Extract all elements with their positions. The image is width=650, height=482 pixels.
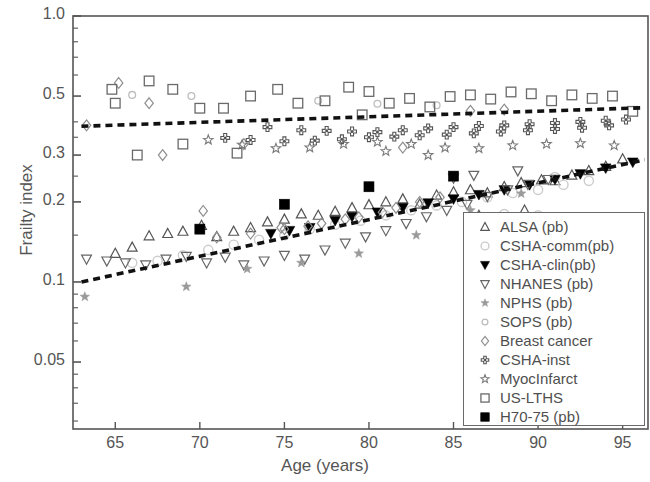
y-tick-label: 0.05 bbox=[17, 351, 65, 369]
frailty-index-scatter-figure: Frailty index Age (years) 1.00.50.30.20.… bbox=[0, 0, 650, 482]
legend-item-sops-pb[interactable]: SOPS (pb) bbox=[464, 312, 644, 331]
y-tick-label: 0.5 bbox=[17, 85, 65, 103]
legend-item-label: CSHA-clin(pb) bbox=[500, 256, 596, 274]
legend-item-breast-cancer[interactable]: Breast cancer bbox=[464, 331, 644, 350]
x-tick-label: 90 bbox=[515, 434, 561, 452]
x-tick-label: 85 bbox=[431, 434, 477, 452]
x-tick-label: 70 bbox=[177, 434, 223, 452]
legend-item-label: NHANES (pb) bbox=[500, 275, 593, 293]
legend-item-myocinfarct[interactable]: MyocInfarct bbox=[464, 369, 644, 388]
series-breast-cancer bbox=[82, 78, 508, 243]
y-tick-label: 1.0 bbox=[17, 5, 65, 23]
legend-item-label: MyocInfarct bbox=[500, 370, 578, 388]
legend-item-csha-clin-pb[interactable]: CSHA-clin(pb) bbox=[464, 255, 644, 274]
legend-item-csha-inst[interactable]: CSHA-inst bbox=[464, 350, 644, 369]
x-tick-label: 75 bbox=[261, 434, 307, 452]
x-tick-label: 95 bbox=[600, 434, 646, 452]
legend-box: ALSA (pb)CSHA-comm(pb)CSHA-clin(pb)NHANE… bbox=[463, 212, 645, 426]
diamond-open-icon bbox=[470, 332, 500, 350]
series-h70-75-pb bbox=[195, 171, 459, 234]
y-tick-label: 0.2 bbox=[17, 191, 65, 209]
square-filled-icon bbox=[470, 408, 500, 426]
x-axis-title: Age (years) bbox=[200, 456, 450, 476]
star-gray-icon bbox=[470, 294, 500, 312]
legend-item-label: ALSA (pb) bbox=[500, 218, 568, 236]
triangle-down-filled-icon bbox=[470, 256, 500, 274]
x-tick-label: 65 bbox=[92, 434, 138, 452]
legend-item-us-lths[interactable]: US-LTHS bbox=[464, 388, 644, 407]
legend-item-nhanes-pb[interactable]: NHANES (pb) bbox=[464, 274, 644, 293]
legend-item-label: CSHA-comm(pb) bbox=[500, 237, 614, 255]
circle-open-icon bbox=[470, 237, 500, 255]
legend-item-nphs-pb[interactable]: NPHS (pb) bbox=[464, 293, 644, 312]
series-csha-inst bbox=[221, 115, 631, 146]
legend-item-label: CSHA-inst bbox=[500, 351, 570, 369]
triangle-up-open-icon bbox=[470, 218, 500, 236]
y-tick-label: 0.1 bbox=[17, 271, 65, 289]
cross-dot-icon bbox=[470, 351, 500, 369]
legend-item-label: NPHS (pb) bbox=[500, 294, 573, 312]
x-tick-label: 80 bbox=[346, 434, 392, 452]
legend-item-label: Breast cancer bbox=[500, 332, 593, 350]
circle-small-open-icon bbox=[470, 313, 500, 331]
star-open-icon bbox=[470, 370, 500, 388]
legend-item-label: SOPS (pb) bbox=[500, 313, 573, 331]
legend-item-label: H70-75 (pb) bbox=[500, 408, 580, 426]
legend-item-h70-75-pb[interactable]: H70-75 (pb) bbox=[464, 407, 644, 426]
square-open-icon bbox=[470, 389, 500, 407]
legend-item-label: US-LTHS bbox=[500, 389, 563, 407]
legend-item-csha-comm-pb[interactable]: CSHA-comm(pb) bbox=[464, 236, 644, 255]
series-myocinfarct bbox=[204, 135, 619, 159]
legend-item-alsa-pb[interactable]: ALSA (pb) bbox=[464, 217, 644, 236]
y-tick-label: 0.3 bbox=[17, 144, 65, 162]
triangle-down-open-icon bbox=[470, 275, 500, 293]
